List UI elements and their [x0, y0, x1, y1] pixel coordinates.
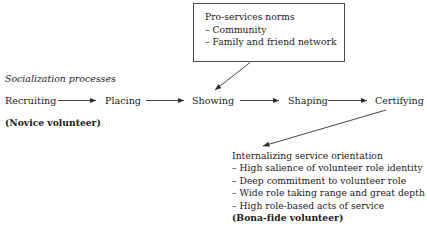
norms-box-content: Pro-services norms – Community – Family …	[194, 4, 344, 49]
outcome-title: Internalizing service orientation	[232, 150, 427, 162]
stage-showing: Showing	[192, 95, 234, 107]
bona-fide-volunteer-annotation: (Bona-fide volunteer)	[232, 212, 427, 224]
pro-services-norms-box: Pro-services norms – Community – Family …	[193, 3, 345, 62]
outcome-item-role-identity: – High salience of volunteer role identi…	[232, 162, 427, 174]
stage-recruiting: Recruiting	[5, 95, 56, 107]
novice-volunteer-annotation: (Novice volunteer)	[5, 117, 101, 128]
internalizing-service-orientation-block: Internalizing service orientation – High…	[232, 150, 427, 224]
norms-box-item-family-network: – Family and friend network	[205, 36, 344, 49]
stage-shaping: Shaping	[288, 95, 328, 107]
outcome-item-commitment: – Deep commitment to volunteer role	[232, 175, 427, 187]
outcome-item-acts-of-service: – High role-based acts of service	[232, 200, 427, 212]
arrow-norms-to-showing	[215, 63, 250, 91]
socialization-processes-label: Socialization processes	[5, 73, 116, 84]
outcome-item-role-taking-range: – Wide role taking range and great depth	[232, 187, 427, 199]
norms-box-item-community: – Community	[205, 24, 344, 37]
socialization-process-diagram: Pro-services norms – Community – Family …	[0, 0, 427, 235]
stage-placing: Placing	[105, 95, 141, 107]
stage-certifying: Certifying	[375, 95, 424, 107]
norms-box-title: Pro-services norms	[205, 11, 344, 24]
arrow-certifying-to-outcome	[263, 110, 386, 146]
